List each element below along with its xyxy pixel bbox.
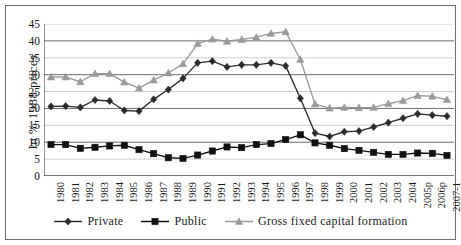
y-tick-label: 45 xyxy=(29,18,41,30)
y-tick-label: 10 xyxy=(29,136,41,148)
gridlines xyxy=(44,24,454,176)
x-tick-label: 1999 xyxy=(334,182,345,203)
chart-figure: In % 1988 prices 454035302520151050 1980… xyxy=(0,0,461,245)
series-public xyxy=(48,132,450,162)
x-tick-label: 1997 xyxy=(304,182,315,203)
y-tick-label: 0 xyxy=(34,170,40,182)
x-tick-label: 1989 xyxy=(187,182,198,203)
legend-item-gross-fixed-capital-formation[interactable]: Gross fixed capital formation xyxy=(224,214,408,229)
data-series-layer xyxy=(47,28,450,161)
y-tick-label: 15 xyxy=(29,119,41,131)
x-tick-label: 1994 xyxy=(260,182,271,203)
legend-marker-diamond-icon xyxy=(53,216,83,227)
chart-legend: PrivatePublicGross fixed capital formati… xyxy=(6,214,455,229)
x-tick-label: 2000 xyxy=(348,182,359,203)
legend-marker-square-icon xyxy=(140,216,170,227)
x-tick-label: 2005p xyxy=(422,182,433,208)
x-tick-label: 1998 xyxy=(319,182,330,203)
x-tick-label: 2006p xyxy=(436,182,447,208)
x-tick-label: 1981 xyxy=(70,182,81,203)
chart-canvas xyxy=(44,24,454,176)
y-tick-label: 40 xyxy=(29,35,41,47)
legend-item-public[interactable]: Public xyxy=(140,214,206,229)
x-tick-label: 1986 xyxy=(143,182,154,203)
series-private xyxy=(48,58,450,141)
plot-area: 454035302520151050 xyxy=(44,24,454,176)
y-tick-label: 25 xyxy=(29,86,41,98)
x-tick-label: 1993 xyxy=(246,182,257,203)
y-tick-label: 5 xyxy=(34,153,40,165)
x-tick-label: 2003 xyxy=(392,182,403,203)
x-tick-label: 1980 xyxy=(55,182,66,203)
x-tick-label: 2004 xyxy=(407,182,418,203)
chart-frame: In % 1988 prices 454035302520151050 1980… xyxy=(5,5,456,240)
x-tick-label: 2001 xyxy=(363,182,374,203)
x-tick-label: 1995 xyxy=(275,182,286,203)
legend-item-private[interactable]: Private xyxy=(53,214,123,229)
legend-label: Private xyxy=(87,214,123,229)
x-tick-label: 2007-1 xyxy=(451,182,461,212)
y-tick-label: 20 xyxy=(29,102,41,114)
x-tick-label: 2002 xyxy=(378,182,389,203)
y-tick-label: 30 xyxy=(29,69,41,81)
x-tick-label: 1985 xyxy=(128,182,139,203)
x-tick-label: 1991 xyxy=(216,182,227,203)
x-tick-label: 1984 xyxy=(114,182,125,203)
legend-label: Gross fixed capital formation xyxy=(258,214,408,229)
axis-lines xyxy=(44,24,454,176)
x-tick-label: 1988 xyxy=(172,182,183,203)
x-tick-label: 1992 xyxy=(231,182,242,203)
x-tick-label: 1990 xyxy=(202,182,213,203)
x-tick-label: 1982 xyxy=(84,182,95,203)
x-tick-label: 1983 xyxy=(99,182,110,203)
x-tick-label: 1987 xyxy=(158,182,169,203)
legend-label: Public xyxy=(174,214,206,229)
y-tick-label: 35 xyxy=(29,52,41,64)
legend-marker-triangle-icon xyxy=(224,216,254,227)
x-tick-label: 1996 xyxy=(290,182,301,203)
